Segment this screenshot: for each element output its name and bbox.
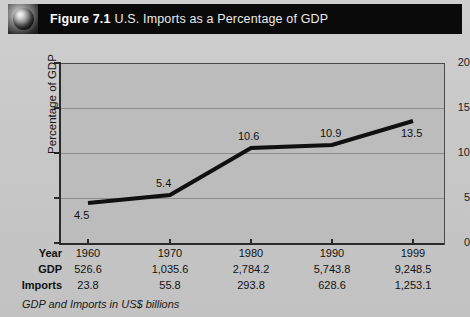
globe-icon xyxy=(8,4,38,34)
cell-gdp-1960: 526.6 xyxy=(43,263,133,276)
plot-area xyxy=(60,63,445,245)
x-tick-1999 xyxy=(412,239,414,245)
data-label-1999: 13.5 xyxy=(401,128,422,139)
figure-header-title: Figure 7.1U.S. Imports as a Percentage o… xyxy=(50,10,328,30)
table-row: Year 1960 1970 1980 1990 1999 xyxy=(0,247,470,262)
cell-gdp-1999: 9,248.5 xyxy=(368,263,458,276)
figure-container: Figure 7.1U.S. Imports as a Percentage o… xyxy=(0,0,470,317)
cell-imports-1970: 55.8 xyxy=(125,279,215,292)
cell-year-1960: 1960 xyxy=(43,247,133,260)
y-tick-0 xyxy=(54,242,60,244)
cell-imports-1980: 293.8 xyxy=(206,279,296,292)
cell-imports-1990: 628.6 xyxy=(287,279,377,292)
table-row: GDP 526.6 1,035.6 2,784.2 5,743.8 9,248.… xyxy=(0,263,470,278)
cell-gdp-1990: 5,743.8 xyxy=(287,263,377,276)
gridline-5 xyxy=(61,198,444,199)
cell-gdp-1970: 1,035.6 xyxy=(125,263,215,276)
y-tick-label-20: 20 xyxy=(424,57,470,68)
x-tick-1970 xyxy=(169,239,171,245)
y-tick-label-5: 5 xyxy=(424,192,470,203)
gridline-15 xyxy=(61,108,444,109)
cell-year-1980: 1980 xyxy=(206,247,296,260)
x-tick-1990 xyxy=(331,239,333,245)
cell-year-1990: 1990 xyxy=(287,247,377,260)
data-label-1970: 5.4 xyxy=(156,178,171,189)
y-axis-title: Percentage of GDP xyxy=(46,44,62,164)
data-label-1980: 10.6 xyxy=(238,131,259,142)
x-tick-1960 xyxy=(87,239,89,245)
x-tick-1980 xyxy=(250,239,252,245)
y-tick-label-15: 15 xyxy=(424,102,470,113)
cell-year-1999: 1999 xyxy=(368,247,458,260)
figure-number: Figure 7.1 xyxy=(50,12,111,26)
cell-gdp-1980: 2,784.2 xyxy=(206,263,296,276)
data-table: Year 1960 1970 1980 1990 1999 GDP 526.6 … xyxy=(0,247,470,295)
figure-title: U.S. Imports as a Percentage of GDP xyxy=(115,12,329,26)
gridline-10 xyxy=(61,153,444,154)
data-label-1960: 4.5 xyxy=(74,210,89,221)
data-label-1990: 10.9 xyxy=(320,128,341,139)
y-tick-label-10: 10 xyxy=(424,147,470,158)
y-tick-5 xyxy=(54,197,60,199)
figure-footnote: GDP and Imports in US$ billions xyxy=(22,298,179,310)
table-row: Imports 23.8 55.8 293.8 628.6 1,253.1 xyxy=(0,279,470,294)
cell-imports-1960: 23.8 xyxy=(43,279,133,292)
cell-year-1970: 1970 xyxy=(125,247,215,260)
cell-imports-1999: 1,253.1 xyxy=(368,279,458,292)
